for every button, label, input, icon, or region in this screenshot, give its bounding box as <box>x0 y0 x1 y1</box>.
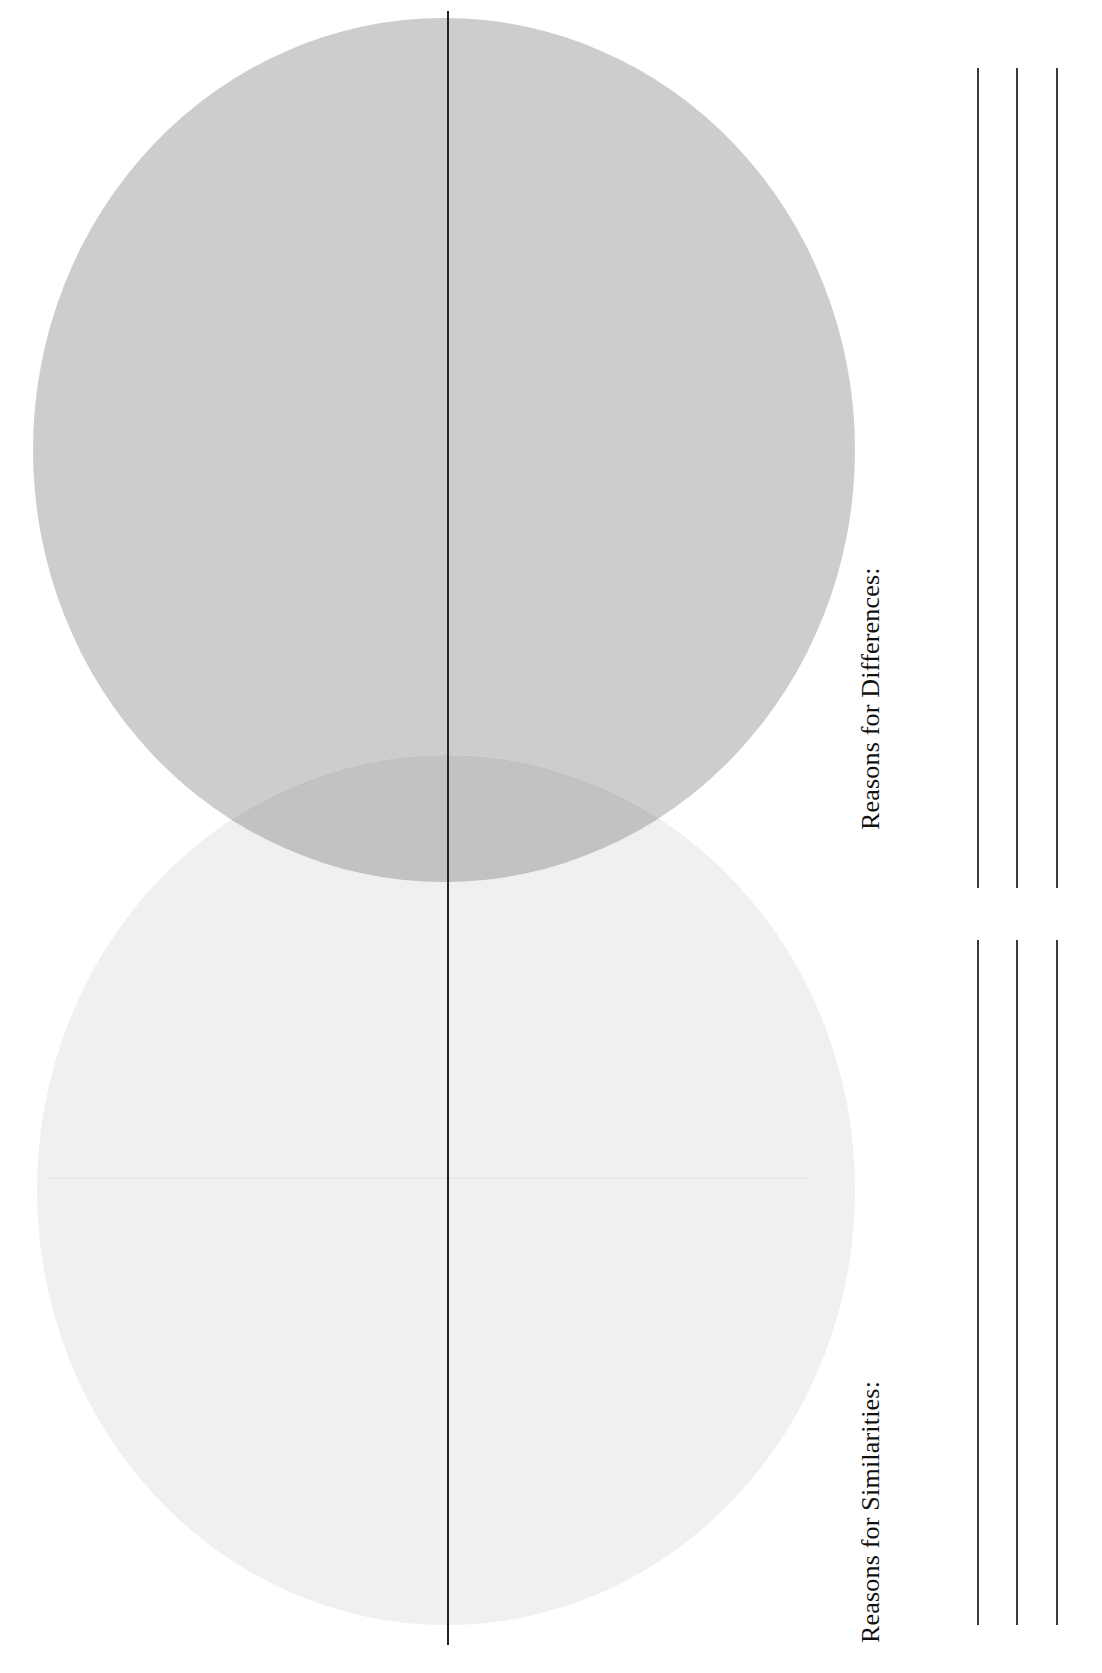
worksheet-page: Reasons for Differences: Reasons for Sim… <box>0 0 1102 1673</box>
section-differences: Reasons for Differences: <box>830 0 1102 930</box>
venn-diagram-svg <box>0 0 870 1673</box>
similarities-write-line[interactable] <box>977 940 979 1625</box>
writing-column: Reasons for Differences: Reasons for Sim… <box>830 0 1102 1673</box>
scan-artifact-line <box>46 1178 810 1179</box>
venn-diagram <box>0 0 870 1673</box>
differences-write-line[interactable] <box>1016 68 1018 888</box>
venn-center-divider-line <box>447 11 449 1645</box>
section-similarities-label: Reasons for Similarities: <box>856 1381 886 1643</box>
section-differences-label: Reasons for Differences: <box>856 567 886 830</box>
similarities-write-line[interactable] <box>1016 940 1018 1625</box>
differences-write-line[interactable] <box>1056 68 1058 888</box>
differences-write-line[interactable] <box>977 68 979 888</box>
venn-circle-bottom[interactable] <box>37 755 855 1625</box>
scan-artifact-line <box>120 1353 760 1354</box>
section-similarities: Reasons for Similarities: <box>830 930 1102 1673</box>
venn-circle-top[interactable] <box>33 18 855 882</box>
similarities-write-line[interactable] <box>1056 940 1058 1625</box>
